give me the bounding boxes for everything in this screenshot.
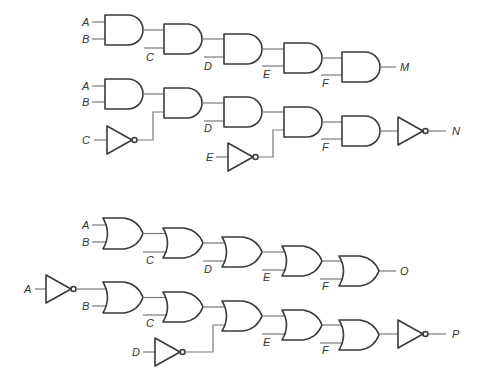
label-input-b: B xyxy=(82,33,89,45)
and-gate xyxy=(342,116,380,146)
label-input-c: C xyxy=(82,134,90,146)
logic-diagram: A B C D E F M A B xyxy=(0,0,484,386)
label-output-n: N xyxy=(452,125,460,137)
or-gate xyxy=(339,320,379,350)
and-gate xyxy=(284,107,322,137)
or-gate xyxy=(103,218,143,249)
or-gate xyxy=(339,256,379,286)
label-input-a: A xyxy=(23,283,31,295)
label-input-f: F xyxy=(322,77,330,89)
and-gate xyxy=(164,88,202,118)
label-output-p: P xyxy=(452,328,460,340)
or-gate xyxy=(222,237,262,267)
label-input-a: A xyxy=(81,16,89,28)
label-input-d: D xyxy=(132,346,140,358)
or-gate xyxy=(222,301,262,331)
label-input-d: D xyxy=(204,60,212,72)
and-gate xyxy=(164,24,202,54)
or-gate xyxy=(163,228,203,258)
label-input-a: A xyxy=(81,80,89,92)
label-input-b: B xyxy=(82,236,89,248)
inverter xyxy=(107,126,132,154)
inverter xyxy=(398,320,423,348)
and-gate xyxy=(284,43,322,73)
circuit-n: A B C D E F xyxy=(81,79,460,171)
label-input-e: E xyxy=(263,336,271,348)
or-gate xyxy=(103,282,143,313)
inverter xyxy=(155,338,180,366)
inverter xyxy=(398,117,423,145)
circuit-o: A B C D E F O xyxy=(81,218,409,292)
inversion-bubble xyxy=(71,287,76,292)
and-gate xyxy=(105,15,143,45)
label-input-e: E xyxy=(263,68,271,80)
inverter xyxy=(46,275,71,303)
label-input-f: F xyxy=(322,344,330,356)
label-input-d: D xyxy=(204,263,212,275)
circuit-p: A B C D E F xyxy=(23,275,460,366)
inversion-bubble xyxy=(423,332,428,337)
or-gate xyxy=(282,246,322,276)
and-gate xyxy=(105,79,143,109)
label-input-d: D xyxy=(204,122,212,134)
or-gate xyxy=(163,292,203,322)
label-input-b: B xyxy=(82,300,89,312)
circuit-m: A B C D E F M xyxy=(81,15,410,89)
label-input-f: F xyxy=(322,280,330,292)
label-input-f: F xyxy=(322,141,330,153)
label-output-o: O xyxy=(400,265,409,277)
label-input-e: E xyxy=(206,151,214,163)
label-input-e: E xyxy=(263,271,271,283)
and-gate xyxy=(342,52,380,82)
and-gate xyxy=(224,97,262,127)
inversion-bubble xyxy=(253,155,258,160)
inversion-bubble xyxy=(132,138,137,143)
or-gate xyxy=(282,310,322,340)
inversion-bubble xyxy=(180,350,185,355)
inverter xyxy=(228,143,253,171)
inversion-bubble xyxy=(423,129,428,134)
label-input-c: C xyxy=(146,317,154,329)
label-input-c: C xyxy=(146,51,154,63)
label-input-c: C xyxy=(146,254,154,266)
label-input-b: B xyxy=(82,96,89,108)
label-output-m: M xyxy=(400,61,410,73)
label-input-a: A xyxy=(81,219,89,231)
and-gate xyxy=(224,34,262,64)
